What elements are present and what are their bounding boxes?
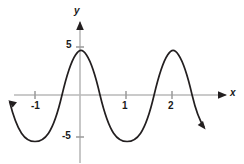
coordinate-plot	[0, 0, 244, 164]
y-tick-label-neg5: -5	[62, 131, 71, 141]
sine-curve	[10, 50, 204, 141]
x-axis-label: x	[230, 88, 236, 98]
y-axis-label: y	[74, 6, 80, 16]
curve-right-arrow-icon	[198, 121, 206, 130]
x-tick-label-neg1: -1	[31, 101, 40, 111]
graph-figure: y x 5 -5 -1 1 2	[0, 0, 244, 164]
y-tick-label-5: 5	[66, 40, 72, 50]
x-axis-arrow-icon	[218, 91, 227, 99]
x-tick-label-1: 1	[122, 101, 128, 111]
x-tick-label-2: 2	[168, 101, 174, 111]
y-axis-arrow-icon	[76, 21, 84, 30]
